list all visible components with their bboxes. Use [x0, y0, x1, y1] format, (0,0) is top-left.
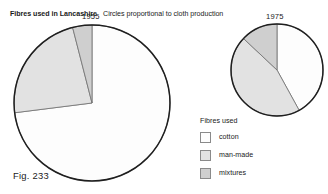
legend-swatch-cotton [200, 132, 211, 143]
legend: Fibres used cotton man-made mixtures [200, 118, 320, 179]
legend-label-mixtures: mixtures [219, 170, 246, 177]
legend-item-man-made: man-made [200, 149, 320, 161]
legend-swatch-man-made [200, 150, 211, 161]
legend-label-cotton: cotton [219, 134, 239, 141]
figure-container: Fibres used in LancashireCircles proport… [0, 0, 328, 194]
legend-item-mixtures: mixtures [200, 167, 320, 179]
figure-subtitle: Circles proportional to cloth production [103, 10, 223, 18]
legend-title: Fibres used [200, 118, 320, 125]
legend-label-man-made: man-made [219, 152, 253, 159]
pie-chart-1975 [227, 20, 327, 120]
legend-swatch-mixtures [200, 168, 211, 179]
pie-chart-1955 [10, 21, 174, 185]
figure-header: Fibres used in LancashireCircles proport… [10, 3, 223, 19]
figure-caption: Fig. 233 [13, 171, 49, 180]
pie-year-label-1955: 1955 [82, 13, 100, 21]
legend-item-cotton: cotton [200, 131, 320, 143]
